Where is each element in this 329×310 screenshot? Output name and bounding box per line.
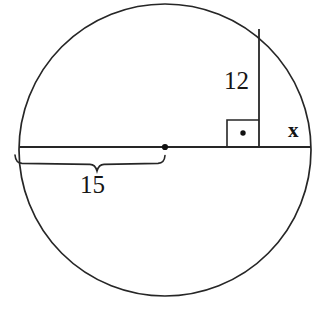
geometry-canvas — [0, 0, 329, 310]
radius-brace-icon — [15, 155, 165, 171]
chord-length-label: 12 — [224, 68, 249, 93]
radius-length-label: 15 — [80, 172, 105, 197]
center-point-dot — [162, 144, 168, 150]
geometry-figure: 12 x 15 — [0, 0, 329, 310]
right-angle-dot-icon — [240, 130, 245, 135]
unknown-segment-label: x — [288, 120, 299, 141]
